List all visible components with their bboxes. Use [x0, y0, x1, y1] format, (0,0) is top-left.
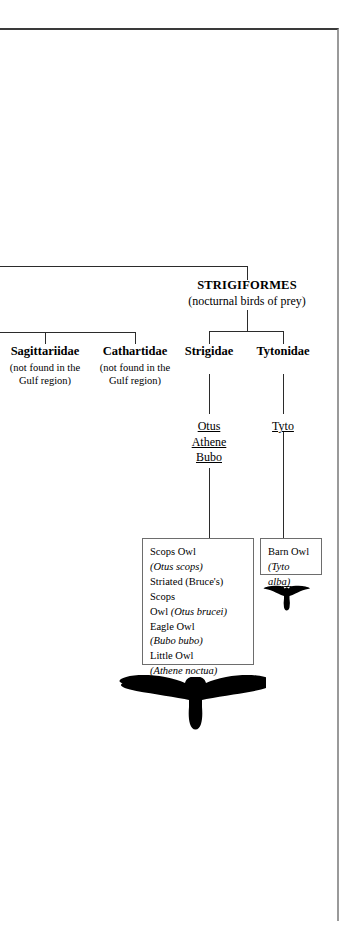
- family-note-line-1: (not found in the: [0, 361, 95, 374]
- family-note-line-1: (not found in the: [85, 361, 185, 374]
- species-item: Eagle Owl (Bubo bubo): [150, 620, 246, 650]
- genus-name-tyto: Tyto: [233, 419, 333, 435]
- species-common-name: Scops Owl: [150, 546, 196, 557]
- species-item: Striated (Bruce's) Scops Owl (Otus bruce…: [150, 575, 246, 620]
- species-common-name: Eagle Owl: [150, 621, 195, 632]
- species-scientific-name: (Otus scops): [150, 561, 203, 572]
- family-node-tytonidae: Tytonidae: [233, 344, 333, 359]
- tytonidae-stem: [283, 331, 284, 344]
- family-note-line-2: Gulf region): [85, 374, 185, 387]
- order-name: STRIGIFORMES: [147, 278, 347, 293]
- flying-barn-owl-silhouette: [262, 582, 322, 612]
- strigidae-to-genera-line: [209, 374, 210, 414]
- species-list: Scops Owl (Otus scops) Striated (Bruce's…: [150, 545, 246, 679]
- tytonidae-to-species-line: [283, 432, 284, 538]
- species-item: Scops Owl (Otus scops): [150, 545, 246, 575]
- species-scientific-name: (Otus brucei): [171, 606, 227, 617]
- species-box-strigidae: Scops Owl (Otus scops) Striated (Bruce's…: [142, 538, 254, 665]
- offpage-families-branch-line: [0, 332, 136, 333]
- page-border: [0, 28, 339, 921]
- order-node-strigiformes: STRIGIFORMES (nocturnal birds of prey): [147, 278, 347, 308]
- family-name: Tytonidae: [233, 344, 333, 359]
- family-name: Sagittariidae: [0, 344, 95, 359]
- species-common-name: Barn Owl: [268, 546, 309, 557]
- family-note: (not found in the Gulf region): [85, 361, 185, 387]
- tytonidae-to-genera-line: [283, 374, 284, 414]
- soaring-owl-silhouette: [118, 670, 266, 738]
- species-common-name-cont: Owl: [150, 606, 171, 617]
- species-scientific-name: (Bubo bubo): [150, 635, 203, 646]
- species-common-name: Little Owl: [150, 650, 193, 661]
- family-note-line-2: Gulf region): [0, 374, 95, 387]
- strigidae-stem: [209, 331, 210, 344]
- strigidae-to-species-line: [209, 468, 210, 538]
- sagittariidae-stem: [45, 332, 46, 344]
- species-common-name: Striated (Bruce's) Scops: [150, 576, 223, 602]
- strigiformes-descender: [247, 310, 248, 332]
- cathartidae-stem: [135, 332, 136, 344]
- strigiformes-split-line: [209, 331, 283, 332]
- genus-name-bubo: Bubo: [159, 450, 259, 466]
- family-note: (not found in the Gulf region): [0, 361, 95, 387]
- genus-name-athene: Athene: [159, 435, 259, 451]
- order-gloss: (nocturnal birds of prey): [147, 294, 347, 308]
- species-box-tytonidae: Barn Owl (Tyto alba): [260, 538, 322, 575]
- genus-list-tytonidae: Tyto: [233, 419, 333, 435]
- family-node-sagittariidae: Sagittariidae (not found in the Gulf reg…: [0, 344, 95, 387]
- root-branch-line: [0, 266, 248, 267]
